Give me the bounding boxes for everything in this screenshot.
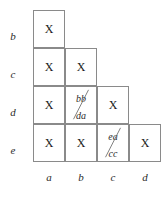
cancelled-fraction: bb da [66,87,96,123]
fraction-denominator: da [66,111,96,121]
staircase-tableau-diagram: b c d e X X X X bb da X X X ea cc [0,0,167,201]
mark-x: X [34,87,64,123]
column-label-c: c [106,172,120,183]
mark-x: X [66,125,96,161]
fraction-numerator: bb [66,94,96,104]
row-label-e: e [6,145,20,156]
row-label-d: d [6,107,20,118]
column-label-d: d [138,172,152,183]
tableau-cell-d-a: X [33,86,65,124]
tableau-cell-e-c: ea cc [97,124,129,162]
row-label-c: c [6,69,20,80]
mark-x: X [34,49,64,85]
mark-x: X [34,11,64,47]
tableau-cell-c-a: X [33,48,65,86]
column-label-b: b [74,172,88,183]
tableau-cell-e-b: X [65,124,97,162]
mark-x: X [66,49,96,85]
mark-x: X [98,87,128,123]
fraction-numerator: ea [98,132,128,142]
mark-x: X [34,125,64,161]
tableau-cell-e-a: X [33,124,65,162]
column-label-a: a [42,172,56,183]
row-label-b: b [6,31,20,42]
tableau-cell-c-b: X [65,48,97,86]
tableau-cell-d-c: X [97,86,129,124]
tableau-cell-b-a: X [33,10,65,48]
tableau-cell-d-b: bb da [65,86,97,124]
tableau-cell-e-d: X [129,124,161,162]
cancelled-fraction: ea cc [98,125,128,161]
fraction-denominator: cc [98,149,128,159]
mark-x: X [130,125,160,161]
